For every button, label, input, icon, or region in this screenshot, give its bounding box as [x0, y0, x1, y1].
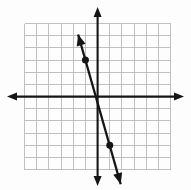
data-point-upper — [82, 57, 89, 64]
data-point-lower — [106, 142, 113, 149]
coordinate-graph-figure: Coordinate plane with a graphed line — [0, 0, 191, 190]
graph-canvas — [0, 0, 191, 190]
